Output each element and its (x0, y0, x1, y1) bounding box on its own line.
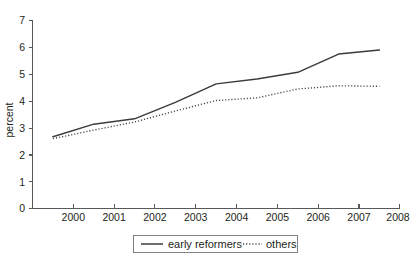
y-tick-label: 6 (19, 41, 25, 53)
x-axis-ticks (73, 204, 400, 209)
y-tick-label: 1 (19, 176, 25, 188)
y-tick-label: 3 (19, 122, 25, 134)
x-tick-label: 2002 (143, 211, 167, 223)
y-tick-label: 7 (19, 14, 25, 26)
series-line-early-reformers (53, 50, 379, 137)
x-tick-label: 2003 (184, 211, 208, 223)
x-tick-label: 2006 (307, 211, 331, 223)
y-axis-ticks (29, 21, 33, 209)
x-tick-label: 2004 (225, 211, 249, 223)
x-axis-tick-labels: 2000 2001 2002 2003 2004 2005 2006 2007 … (62, 211, 410, 223)
y-tick-label: 5 (19, 68, 25, 80)
legend-label-early-reformers: early reformers (168, 238, 242, 250)
y-tick-label: 0 (19, 202, 25, 214)
x-tick-label: 2001 (102, 211, 126, 223)
y-axis-tick-labels: 7 6 5 4 3 2 1 0 (19, 14, 25, 214)
y-tick-label: 2 (19, 149, 25, 161)
x-tick-label: 2000 (62, 211, 86, 223)
chart-canvas: 7 6 5 4 3 2 1 0 percent 2000 2001 2 (0, 0, 411, 258)
x-tick-label: 2005 (266, 211, 290, 223)
series-line-others (53, 86, 379, 139)
y-axis-title: percent (3, 102, 15, 137)
line-chart: 7 6 5 4 3 2 1 0 percent 2000 2001 2 (0, 0, 411, 258)
x-tick-label: 2008 (386, 211, 410, 223)
legend: early reformers others (134, 236, 298, 253)
x-tick-label: 2007 (347, 211, 371, 223)
legend-label-others: others (266, 238, 297, 250)
y-tick-label: 4 (19, 95, 25, 107)
